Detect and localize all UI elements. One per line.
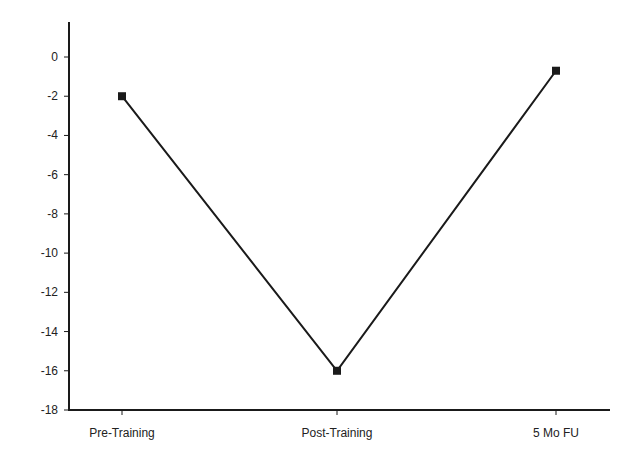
data-series (118, 67, 560, 375)
square-marker (552, 67, 560, 75)
square-marker (333, 367, 341, 375)
y-tick-label: -10 (41, 246, 59, 260)
y-tick-label: -16 (41, 364, 59, 378)
line-chart: 0-2-4-6-8-10-12-14-16-18 Pre-TrainingPos… (0, 0, 640, 463)
y-tick-label: -2 (47, 89, 58, 103)
x-tick-label: Post-Training (302, 426, 373, 440)
y-tick-label: -8 (47, 207, 58, 221)
y-tick-label: -18 (41, 403, 59, 417)
y-tick-label: -12 (41, 285, 59, 299)
square-marker (118, 92, 126, 100)
y-tick-label: -4 (47, 128, 58, 142)
x-tick-label: Pre-Training (89, 426, 155, 440)
x-axis: Pre-TrainingPost-Training5 Mo FU (68, 410, 610, 440)
y-tick-label: -14 (41, 325, 59, 339)
series-line (122, 71, 556, 371)
x-tick-label: 5 Mo FU (533, 426, 579, 440)
y-tick-label: 0 (51, 50, 58, 64)
y-axis: 0-2-4-6-8-10-12-14-16-18 (41, 22, 69, 417)
y-tick-label: -6 (47, 168, 58, 182)
